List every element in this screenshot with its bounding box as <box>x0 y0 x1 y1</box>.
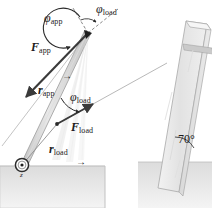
figure-canvas <box>0 0 212 208</box>
f-app-vector <box>26 34 87 97</box>
phi-app-arc <box>43 8 80 48</box>
pivot-axis-marker <box>15 158 28 171</box>
phi-load-dashed-lines <box>73 8 118 33</box>
physics-figure: φapp φload F→app r→app φload F→load r→lo… <box>0 0 212 208</box>
